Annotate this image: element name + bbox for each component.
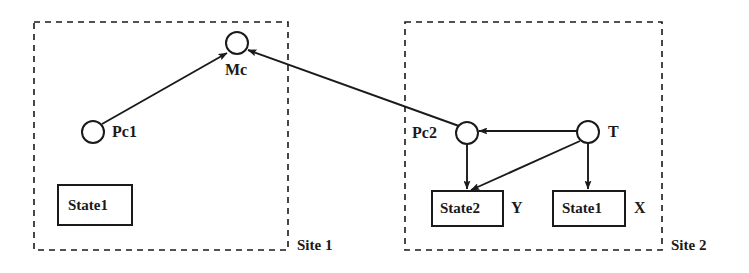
node-label-pc1: Pc1 <box>112 124 137 140</box>
node-label-pc2: Pc2 <box>412 125 437 141</box>
node-mc[interactable] <box>226 32 248 54</box>
node-pc1[interactable] <box>82 121 104 143</box>
state-box-label-state2-site2: State2 <box>440 201 480 216</box>
diagram-canvas: Mc Pc1 Pc2 T State1 State2 State1 Y X Si… <box>0 0 749 273</box>
node-t[interactable] <box>577 121 599 143</box>
edge-pc1-to-mc <box>102 53 227 124</box>
node-pc2[interactable] <box>456 122 478 144</box>
state-box-label-state1-site1: State1 <box>68 198 108 213</box>
variable-label-x: X <box>634 200 646 216</box>
state-box-label-state1-site2: State1 <box>562 201 602 216</box>
node-label-mc: Mc <box>225 62 247 78</box>
node-label-t: T <box>608 124 619 140</box>
variable-label-y: Y <box>511 200 523 216</box>
edge-t-to-state2 <box>471 141 580 190</box>
edge-pc2-to-mc <box>248 50 459 126</box>
site-label-site2: Site 2 <box>671 238 706 253</box>
site-label-site1: Site 1 <box>297 238 332 253</box>
